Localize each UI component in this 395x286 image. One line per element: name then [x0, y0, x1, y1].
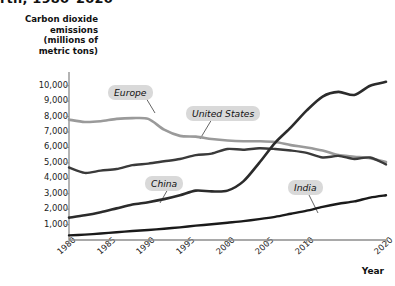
series-label-india: India: [288, 180, 323, 195]
series-line-india: [69, 195, 386, 235]
series-label-china: China: [145, 176, 183, 191]
series-lines: [69, 82, 386, 236]
series-line-united-states: [69, 148, 386, 173]
series-label-europe: Europe: [108, 85, 153, 100]
series-label-united-states: United States: [186, 106, 260, 121]
